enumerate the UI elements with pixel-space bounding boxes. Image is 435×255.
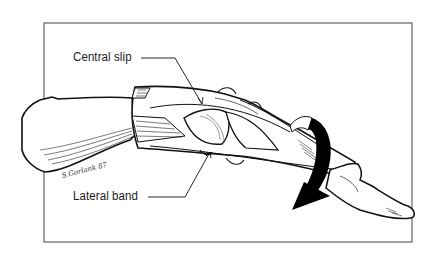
illustration-canvas: Central slip Lateral band S.Gorlank 87 [0, 0, 435, 255]
proximal-bone [22, 97, 135, 172]
label-lateral-band: Lateral band [73, 189, 138, 203]
finger-illustration [0, 0, 435, 255]
distal-phalanx [326, 163, 414, 218]
label-central-slip: Central slip [73, 50, 132, 64]
